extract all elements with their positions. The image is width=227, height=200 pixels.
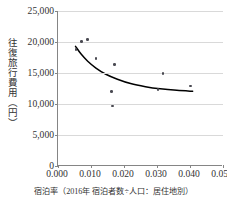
data-point (86, 38, 89, 41)
data-point (162, 72, 165, 75)
data-point (189, 85, 192, 88)
gridline (58, 104, 223, 105)
y-axis-title: 往復旅行費用（円） (1, 38, 17, 158)
x-axis-tick-label: 0.050 (202, 169, 227, 179)
y-axis-tick-label: 15,000 (18, 68, 54, 78)
data-point (113, 63, 116, 66)
gridline (58, 135, 223, 136)
y-axis-tick-mark (55, 11, 58, 12)
data-point (80, 40, 83, 43)
y-axis-tick-mark (55, 104, 58, 105)
y-axis-tick-label: 20,000 (18, 37, 54, 47)
y-axis-tick-mark (55, 42, 58, 43)
plot-area (57, 11, 222, 166)
gridline (58, 73, 223, 74)
x-axis-tick-labels: 0.0000.0100.0200.0300.0400.050 (0, 169, 227, 183)
x-axis-caption: 宿泊率（2016年 宿泊者数÷人口：居住地別） (0, 187, 227, 197)
y-axis-tick-mark (55, 73, 58, 74)
y-axis-tick-label: 25,000 (18, 6, 54, 16)
y-axis-tick-label: 5,000 (18, 130, 54, 140)
gridline (58, 11, 223, 12)
scatter-chart: 往復旅行費用（円） 05,00010,00015,00020,00025,000… (0, 0, 227, 200)
data-point (111, 105, 114, 108)
data-point (110, 90, 113, 93)
y-axis-tick-label: 10,000 (18, 99, 54, 109)
trendline (58, 11, 223, 166)
y-axis-tick-mark (55, 135, 58, 136)
